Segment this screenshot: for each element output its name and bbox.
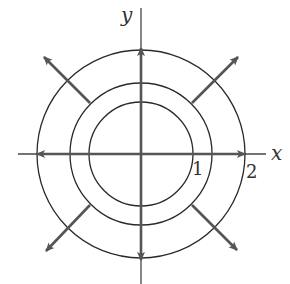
x-axis-label: x [271, 141, 282, 165]
arrow-down-left [46, 205, 90, 251]
arrow-up-right [192, 57, 238, 103]
tick-label-2: 2 [246, 161, 257, 182]
y-axis-label: y [120, 3, 133, 27]
diagram-canvas: y x 1 2 [0, 0, 290, 284]
arrow-up-left [44, 57, 90, 103]
tick-label-1: 1 [192, 158, 203, 179]
arrow-down-right [192, 205, 237, 250]
